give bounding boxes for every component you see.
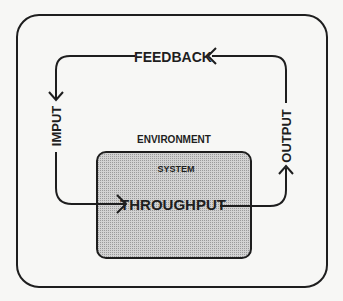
input-label: IMPUT — [49, 106, 64, 147]
output-label: OUTPUT — [279, 109, 294, 163]
environment-label: ENVIRONMENT — [137, 134, 211, 145]
feedback-label: FEEDBACK — [134, 49, 212, 65]
system-label: SYSTEM — [157, 164, 194, 174]
system-diagram: FEEDBACK ENVIRONMENT SYSTEM THROUGHPUT I… — [0, 0, 343, 301]
feedback-path-right — [212, 56, 286, 103]
throughput-label: THROUGHPUT — [120, 196, 226, 213]
feedback-path-left — [56, 56, 135, 100]
